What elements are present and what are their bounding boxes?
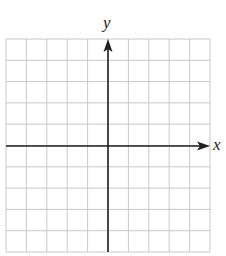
y-axis-label: y (103, 14, 111, 31)
coordinate-plane: y x (0, 0, 226, 256)
x-axis-label: x (213, 136, 221, 153)
grid-svg (0, 0, 226, 256)
